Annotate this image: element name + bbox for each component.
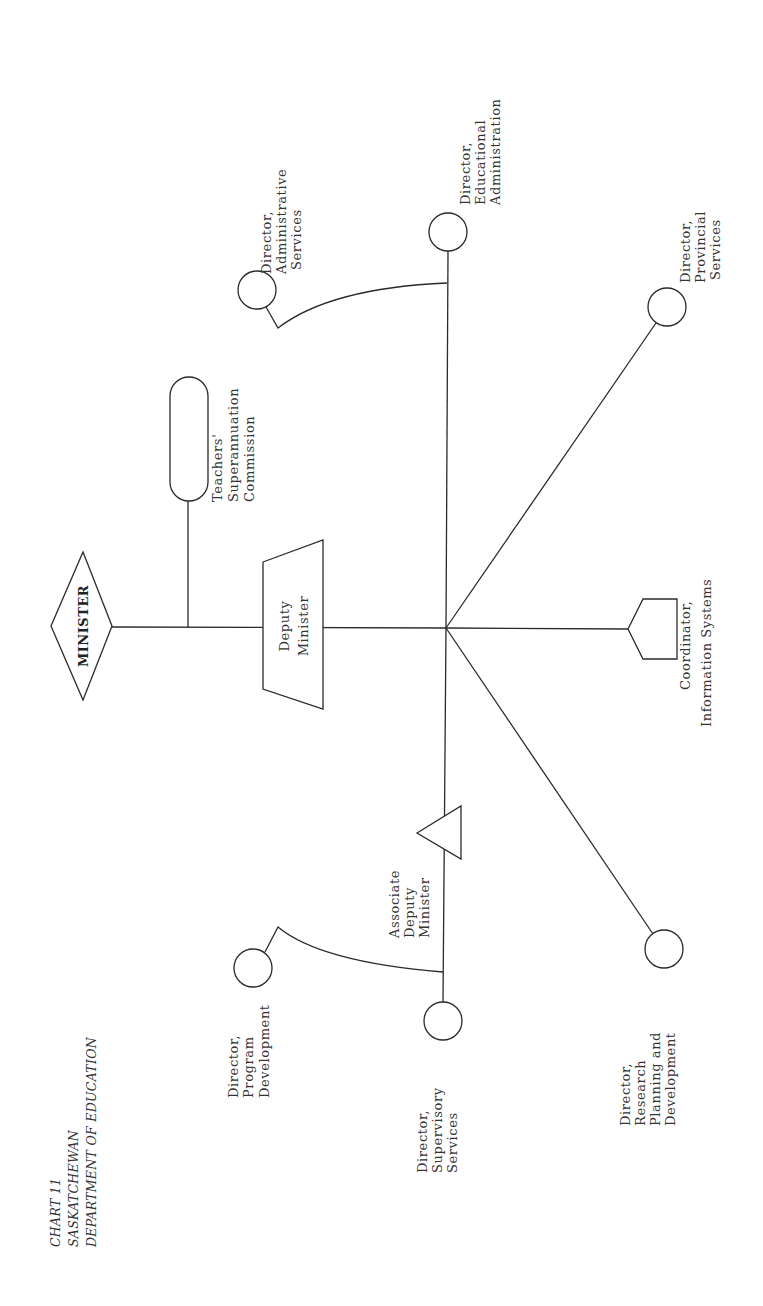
circle-shape <box>234 949 272 987</box>
chart-title: CHART 11 SASKATCHEWAN DEPARTMENT OF EDUC… <box>48 1036 99 1248</box>
line-to-admin-services <box>266 283 447 328</box>
educational-admin-line1: Director, <box>458 142 473 205</box>
associate-deputy-line1: Associate <box>387 870 402 939</box>
teachers-commission-line3: Commission <box>242 416 257 502</box>
node-minister[interactable]: MINISTER <box>51 552 112 700</box>
node-dir-provincial-services[interactable]: Director, Provincial Services <box>648 211 723 326</box>
admin-services-line2: Administrative <box>274 169 289 275</box>
teachers-commission-line2: Superannuation <box>226 388 241 502</box>
org-chart: MINISTER Teachers' Superannuation Commis… <box>0 0 763 1306</box>
supervisory-line1: Director, <box>415 1110 430 1173</box>
teachers-commission-line1: Teachers' <box>210 434 225 502</box>
trapezoid-shape <box>263 540 323 709</box>
provincial-services-line3: Services <box>708 219 723 280</box>
research-line4: Development <box>663 1032 678 1126</box>
circle-shape <box>648 288 686 326</box>
educational-admin-line2: Educational <box>473 120 488 205</box>
program-dev-line1: Director, <box>226 1035 241 1098</box>
node-dir-research[interactable]: Director, Research Planning and Developm… <box>618 930 683 1126</box>
line-to-research <box>446 628 653 934</box>
line-to-coordinator-info <box>446 628 628 629</box>
line-to-educational-admin <box>446 251 448 628</box>
supervisory-line2: Supervisory <box>430 1087 445 1173</box>
admin-services-line1: Director, <box>259 211 274 274</box>
deputy-minister-line2: Minister <box>296 596 311 657</box>
circle-shape <box>238 271 276 309</box>
provincial-services-line2: Provincial <box>693 211 708 283</box>
node-deputy-minister[interactable]: Deputy Minister <box>263 540 323 709</box>
triangle-shape <box>417 806 461 859</box>
admin-services-line3: Services <box>289 209 304 270</box>
research-line2: Research <box>633 1060 648 1126</box>
coordinator-info-line2: Information Systems <box>699 579 714 727</box>
educational-admin-line3: Administration <box>488 98 503 206</box>
program-dev-line3: Development <box>257 1004 272 1098</box>
supervisory-line3: Services <box>445 1112 460 1173</box>
node-dir-admin-services[interactable]: Director, Administrative Services <box>238 169 304 309</box>
associate-deputy-line3: Minister <box>417 877 432 938</box>
circle-shape <box>429 213 467 251</box>
research-line1: Director, <box>618 1063 633 1126</box>
provincial-services-line1: Director, <box>678 220 693 283</box>
node-teachers-commission[interactable]: Teachers' Superannuation Commission <box>170 377 257 502</box>
research-line3: Planning and <box>648 1032 663 1126</box>
title-line2: SASKATCHEWAN <box>66 1129 81 1247</box>
node-dir-educational-admin[interactable]: Director, Educational Administration <box>429 98 503 251</box>
node-coordinator-info[interactable]: Coordinator, Information Systems <box>628 579 714 727</box>
title-line3: DEPARTMENT OF EDUCATION <box>84 1036 99 1248</box>
deputy-minister-line1: Deputy <box>277 600 292 651</box>
line-to-provincial-services <box>446 323 656 628</box>
node-dir-supervisory[interactable]: Director, Supervisory Services <box>415 1002 462 1173</box>
pentagon-shape <box>628 599 677 659</box>
node-dir-program-dev[interactable]: Director, Program Development <box>226 949 272 1098</box>
associate-deputy-line2: Deputy <box>402 887 417 938</box>
minister-label: MINISTER <box>76 585 91 667</box>
coordinator-info-line1: Coordinator, <box>678 600 693 690</box>
circle-shape <box>424 1002 462 1040</box>
title-line1: CHART 11 <box>48 1178 63 1247</box>
circle-shape <box>645 930 683 968</box>
pill-shape <box>170 377 208 501</box>
program-dev-line2: Program <box>241 1036 256 1098</box>
connectors <box>112 251 656 1002</box>
node-associate-deputy[interactable]: Associate Deputy Minister <box>387 806 461 939</box>
